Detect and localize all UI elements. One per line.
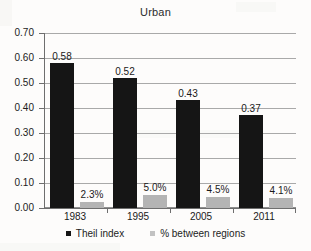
bar-group: 0.58 2.3% [50,33,106,208]
bar-theil-index[interactable] [239,115,263,208]
x-axis-tick [233,208,234,213]
bar-theil-index[interactable] [113,78,137,208]
plot-area: 0.58 2.3% 0.52 5.0% 0.43 4.5% 0. [44,33,296,208]
legend-label: % between regions [160,228,245,239]
x-axis-tick [170,208,171,213]
bar-pct-between-regions[interactable] [143,195,167,208]
x-tick-label: 2005 [173,211,229,222]
y-tick-label: 0.30 [0,127,34,138]
bar-value-label: 4.1% [266,185,296,196]
scan-artifact [0,243,120,251]
bar-value-label: 2.3% [77,189,107,200]
y-tick-label: 0.00 [0,202,34,213]
y-axis-line [44,33,45,209]
bar-value-label: 0.43 [174,88,202,99]
bar-value-label: 4.5% [203,184,233,195]
chart-figure: Urban 0.70 0.60 0.50 0.40 0.30 0.20 0.10… [0,0,311,251]
y-tick-label: 0.20 [0,152,34,163]
bar-group: 0.43 4.5% [176,33,232,208]
y-tick-label: 0.10 [0,177,34,188]
x-tick-label: 2011 [236,211,292,222]
bar-value-label: 0.58 [48,51,76,62]
y-tick-label: 0.40 [0,102,34,113]
y-tick-label: 0.70 [0,27,34,38]
legend-item-pct-between-regions[interactable]: % between regions [150,228,245,239]
y-tick-label: 0.50 [0,77,34,88]
legend-swatch-icon [66,231,71,236]
legend-swatch-icon [150,231,155,236]
legend-label: Theil index [76,228,124,239]
bar-pct-between-regions[interactable] [269,198,293,208]
legend-item-theil-index[interactable]: Theil index [66,228,124,239]
bar-pct-between-regions[interactable] [206,197,230,208]
x-tick-label: 1983 [47,211,103,222]
x-tick-label: 1995 [110,211,166,222]
x-axis-tick [107,208,108,213]
bar-theil-index[interactable] [50,63,74,208]
bar-group: 0.37 4.1% [239,33,295,208]
chart-legend: Theil index % between regions [0,228,311,239]
bar-value-label: 0.37 [237,103,265,114]
chart-title: Urban [0,6,311,18]
y-tick-label: 0.60 [0,52,34,63]
x-axis-tick [295,208,296,213]
bar-value-label: 5.0% [140,182,170,193]
bar-theil-index[interactable] [176,100,200,208]
bar-value-label: 0.52 [111,66,139,77]
bar-group: 0.52 5.0% [113,33,169,208]
